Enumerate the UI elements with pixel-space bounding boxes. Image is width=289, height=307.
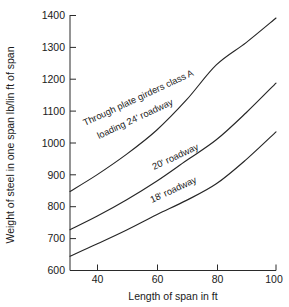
x-tick-marks	[98, 265, 277, 271]
y-tick-label: 900	[47, 169, 65, 181]
x-tick-label: 100	[265, 273, 283, 285]
y-tick-label: 1200	[42, 73, 66, 85]
axes-group	[70, 15, 276, 271]
annotation-18ft-roadway: 18' roadway	[149, 175, 199, 205]
y-tick-label: 1100	[42, 105, 65, 117]
y-tick-label: 1000	[42, 137, 66, 149]
y-tick-label: 1300	[42, 41, 66, 53]
x-tick-label: 80	[212, 273, 224, 285]
y-tick-labels: 1400 1300 1200 1100 1000 900 800 700 600	[42, 9, 66, 276]
y-tick-label: 1400	[42, 9, 66, 21]
y-tick-label: 700	[47, 232, 65, 244]
x-tick-labels: 40 60 80 100	[92, 273, 283, 285]
axis-lines	[70, 15, 276, 271]
y-tick-label: 800	[47, 200, 65, 212]
chart-container: 1400 1300 1200 1100 1000 900 800 700 600…	[0, 0, 289, 307]
curve-annotations: Through plate girders class A loading 24…	[82, 68, 201, 205]
chart-svg: 1400 1300 1200 1100 1000 900 800 700 600…	[0, 0, 289, 307]
x-tick-label: 60	[152, 273, 164, 285]
y-tick-marks	[70, 16, 76, 271]
x-tick-label: 40	[92, 273, 104, 285]
x-axis-title: Length of span in ft	[128, 290, 217, 302]
y-axis-title: Weight of steel in one span lb/lin ft of…	[4, 46, 16, 243]
y-tick-label: 600	[47, 264, 65, 276]
